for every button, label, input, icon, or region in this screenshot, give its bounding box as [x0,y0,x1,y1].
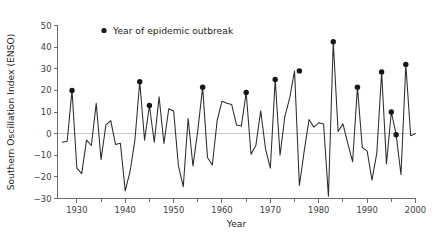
x-tick-label: 1970 [260,205,281,215]
y-tick-label: 50 [41,21,52,31]
chart-canvas: −30−20−1001020304050 1930194019501960197… [0,0,442,245]
y-tick-label: −20 [34,172,52,182]
x-tick-label: 1940 [115,205,136,215]
y-tick-label: −10 [34,150,52,160]
epidemic-outbreak-marker [331,39,336,44]
y-tick-label: −30 [34,194,52,204]
epidemic-outbreak-marker [273,77,278,82]
epidemic-outbreak-marker [137,79,142,84]
y-axis-title: Southern Oscillation Index (ENSO) [5,34,16,191]
x-tick-label: 2000 [405,205,426,215]
x-tick-label: 1980 [308,205,329,215]
legend: Year of epidemic outbreak [101,25,233,36]
epidemic-outbreak-marker [393,132,398,137]
epidemic-outbreak-marker [389,109,394,114]
epidemic-outbreak-marker [69,88,74,93]
epidemic-outbreak-marker [147,103,152,108]
y-tick-label: 0 [46,129,51,139]
legend-label: Year of epidemic outbreak [112,25,234,36]
epidemic-outbreak-marker [200,84,205,89]
epidemic-outbreak-marker [379,69,384,74]
epidemic-outbreak-marker [243,90,248,95]
y-tick-label: 10 [41,107,52,117]
y-tick-label: 30 [41,64,52,74]
epidemic-outbreak-marker [355,84,360,89]
epidemic-outbreak-marker [297,68,302,73]
y-tick-label: 20 [41,85,52,95]
x-tick-label: 1990 [356,205,377,215]
epidemic-outbreak-marker [403,62,408,67]
x-tick-label: 1960 [211,205,232,215]
legend-marker-icon [101,28,106,33]
x-tick-label: 1950 [163,205,184,215]
enso-epidemic-chart-figure: −30−20−1001020304050 1930194019501960197… [0,0,442,245]
x-tick-label: 1930 [66,205,87,215]
y-tick-label: 40 [41,42,52,52]
x-axis-title: Year [226,218,247,229]
